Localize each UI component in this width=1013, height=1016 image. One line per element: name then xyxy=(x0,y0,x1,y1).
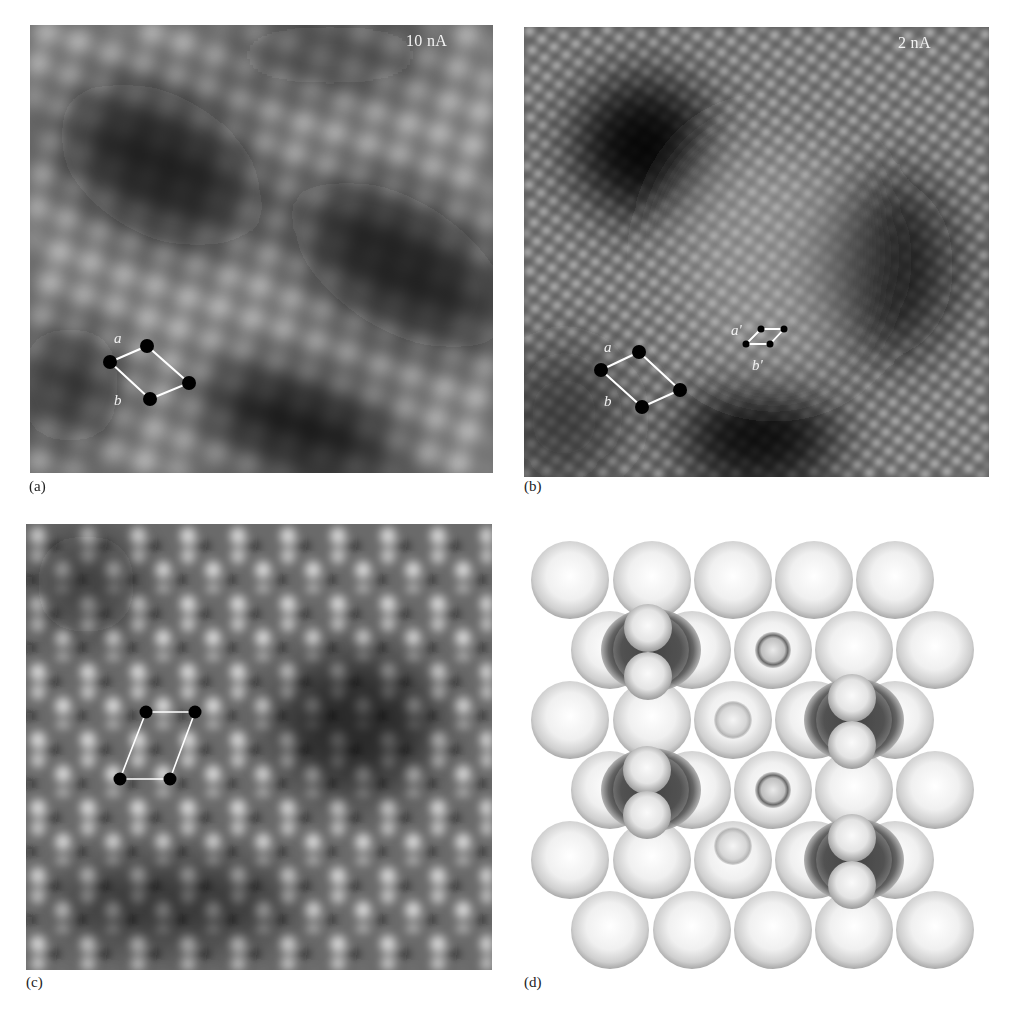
atom-row-6 xyxy=(571,891,974,969)
vector-label-a: a xyxy=(604,339,612,356)
stm-image-a xyxy=(30,25,493,473)
atom-row-1 xyxy=(531,541,934,619)
current-annotation-b: 2 nA xyxy=(898,34,931,52)
vector-label-a: a xyxy=(114,330,122,347)
stm-image-b xyxy=(524,27,989,477)
panel-a: 10 nA a b xyxy=(30,25,493,473)
ball-model-d xyxy=(520,530,990,975)
vector-label-b-prime: b' xyxy=(752,357,763,374)
vector-label-b: b xyxy=(604,393,612,410)
stm-image-c xyxy=(26,524,492,970)
panel-label-d: (d) xyxy=(524,974,542,991)
panel-b: 2 nA a b a' b' xyxy=(524,27,989,477)
panel-label-a: (a) xyxy=(29,478,46,495)
vector-label-a-prime: a' xyxy=(731,322,742,339)
current-annotation-a: 10 nA xyxy=(406,32,447,50)
panel-d xyxy=(520,530,990,975)
panel-c xyxy=(26,524,492,970)
vector-label-b: b xyxy=(114,392,122,409)
panel-label-b: (b) xyxy=(524,478,542,495)
panel-label-c: (c) xyxy=(26,974,43,991)
